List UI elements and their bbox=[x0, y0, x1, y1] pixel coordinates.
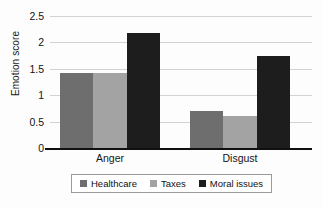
y-tick-label: 1 bbox=[38, 89, 44, 101]
legend-item[interactable]: Moral issues bbox=[199, 178, 263, 189]
y-axis-title: Emotion score bbox=[10, 22, 21, 106]
y-tick-label: 1.5 bbox=[29, 63, 44, 75]
category-label: Anger bbox=[96, 152, 124, 164]
category-label: Disgust bbox=[222, 152, 257, 164]
y-tick-label: 0 bbox=[38, 142, 44, 154]
y-tick-label: 2 bbox=[38, 36, 44, 48]
bar bbox=[60, 73, 93, 148]
gridline bbox=[50, 42, 312, 43]
y-tick-label: 2.5 bbox=[29, 10, 44, 22]
legend-swatch-icon bbox=[199, 180, 206, 187]
legend-swatch-icon bbox=[150, 180, 157, 187]
plot-area: 00.511.522.5 AngerDisgust bbox=[50, 16, 312, 148]
x-axis-line bbox=[45, 148, 312, 150]
legend-label: Healthcare bbox=[91, 178, 137, 189]
y-tick-label: 0.5 bbox=[29, 116, 44, 128]
bar bbox=[257, 56, 290, 148]
bar bbox=[190, 111, 223, 148]
legend-label: Taxes bbox=[161, 178, 186, 189]
legend-swatch-icon bbox=[80, 180, 87, 187]
bar bbox=[93, 73, 126, 149]
legend-item[interactable]: Taxes bbox=[150, 178, 186, 189]
legend: HealthcareTaxesMoral issues bbox=[71, 174, 272, 193]
gridline bbox=[50, 16, 312, 17]
bar bbox=[127, 33, 160, 148]
legend-label: Moral issues bbox=[210, 178, 263, 189]
legend-item[interactable]: Healthcare bbox=[80, 178, 137, 189]
bar-chart: Emotion score 00.511.522.5 AngerDisgust … bbox=[0, 0, 323, 208]
bar bbox=[223, 116, 256, 148]
